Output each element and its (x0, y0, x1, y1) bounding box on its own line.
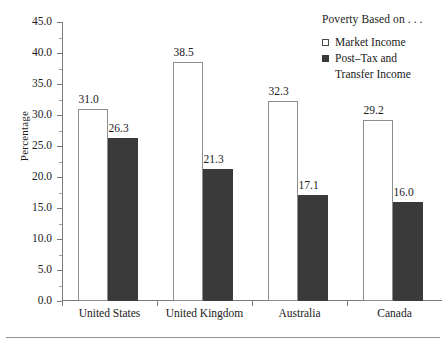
y-axis-minor-tick (59, 131, 63, 132)
legend-title: Poverty Based on . . . (322, 12, 446, 27)
bar (203, 169, 233, 301)
y-axis-minor-tick (59, 224, 63, 225)
y-axis-minor-tick (59, 286, 63, 287)
hollow-square-icon (322, 39, 329, 46)
legend-entry-post-tax-transfer-income: Post–Tax andTransfer Income (322, 51, 446, 81)
legend-label-line1: Post–Tax and (335, 52, 397, 64)
x-axis-category-label: Australia (252, 308, 347, 320)
y-axis-minor-tick (59, 255, 63, 256)
x-axis-tick (347, 301, 348, 306)
y-axis-tick-labels: 0.05.010.015.020.025.030.035.040.045.0 (14, 0, 52, 348)
x-axis-category-label: United States (62, 308, 157, 320)
y-axis-tick-label: 25.0 (18, 140, 52, 152)
bar-chart-figure: Percentage 0.05.010.015.020.025.030.035.… (0, 0, 446, 348)
y-axis-tick-label: 40.0 (18, 47, 52, 59)
y-axis-tick-label: 35.0 (18, 78, 52, 90)
y-axis-minor-tick (59, 100, 63, 101)
bar-value-label: 16.0 (394, 187, 414, 199)
filled-square-icon (322, 55, 329, 62)
legend-label-post-tax-transfer-income: Post–Tax andTransfer Income (335, 51, 411, 81)
y-axis-tick (57, 208, 62, 209)
y-axis-minor-tick (59, 69, 63, 70)
x-axis-tick (157, 301, 158, 306)
y-axis-minor-tick (59, 193, 63, 194)
legend-label-market-income: Market Income (335, 35, 406, 50)
bar (268, 101, 298, 301)
legend-label-line2: Transfer Income (335, 67, 411, 82)
y-axis-minor-tick (59, 162, 63, 163)
bar (108, 138, 138, 301)
x-axis-tick (252, 301, 253, 306)
y-axis-tick (57, 53, 62, 54)
y-axis-tick-label: 10.0 (18, 233, 52, 245)
bar-value-label: 31.0 (79, 94, 99, 106)
y-axis-tick-label: 20.0 (18, 171, 52, 183)
bar-value-label: 17.1 (299, 180, 319, 192)
bar (363, 120, 393, 301)
bar (78, 109, 108, 301)
bar-value-label: 21.3 (204, 154, 224, 166)
y-axis-tick (57, 177, 62, 178)
y-axis-tick (57, 239, 62, 240)
x-axis-category-label: Canada (347, 308, 442, 320)
bar-value-label: 32.3 (269, 86, 289, 98)
chart-legend: Poverty Based on . . . Market Income Pos… (322, 12, 446, 83)
bar-value-label: 26.3 (109, 123, 129, 135)
y-axis-tick-label: 30.0 (18, 109, 52, 121)
y-axis-tick (57, 270, 62, 271)
bar (298, 195, 328, 301)
bar-value-label: 29.2 (364, 105, 384, 117)
y-axis-tick-label: 15.0 (18, 202, 52, 214)
bar (393, 202, 423, 301)
y-axis-line (62, 22, 63, 301)
y-axis-minor-tick (59, 38, 63, 39)
bar (173, 62, 203, 301)
y-axis-tick-label: 0.0 (18, 295, 52, 307)
bar-value-label: 38.5 (174, 47, 194, 59)
y-axis-tick (57, 22, 62, 23)
x-axis-category-label: United Kingdom (157, 308, 252, 320)
x-axis-tick (62, 301, 63, 306)
legend-entry-market-income: Market Income (322, 35, 446, 50)
y-axis-tick (57, 84, 62, 85)
y-axis-tick-label: 45.0 (18, 16, 52, 28)
y-axis-tick (57, 115, 62, 116)
y-axis-tick-label: 5.0 (18, 264, 52, 276)
bottom-divider (6, 337, 440, 338)
y-axis-tick (57, 146, 62, 147)
